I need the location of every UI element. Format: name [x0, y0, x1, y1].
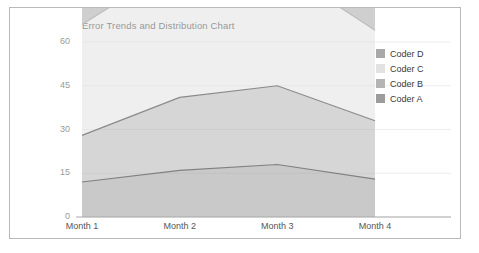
legend-swatch-icon — [376, 94, 385, 103]
y-axis-tick: 45 — [44, 80, 70, 90]
legend-item-label: Coder A — [390, 94, 423, 104]
series-areas — [82, 8, 375, 217]
legend-item[interactable]: Coder D — [376, 46, 468, 61]
x-axis-tick: Month 2 — [163, 221, 196, 231]
x-axis-tick: Month 4 — [359, 221, 392, 231]
legend-item-label: Coder D — [390, 49, 424, 59]
x-axis-tick: Month 1 — [66, 221, 99, 231]
legend-swatch-icon — [376, 64, 385, 73]
legend-item[interactable]: Coder A — [376, 91, 468, 106]
y-axis-tick: 0 — [44, 211, 70, 221]
x-axis-tick: Month 3 — [261, 221, 294, 231]
legend-swatch-icon — [376, 49, 385, 58]
legend-item-label: Coder C — [390, 64, 424, 74]
y-axis-tick: 30 — [44, 124, 70, 134]
legend-item-label: Coder B — [390, 79, 423, 89]
legend-swatch-icon — [376, 79, 385, 88]
chart-screenshot: Error Trends and Distribution Chart 0153… — [0, 0, 479, 253]
chart-frame: Error Trends and Distribution Chart 0153… — [9, 7, 461, 239]
legend-item[interactable]: Coder B — [376, 76, 468, 91]
legend-item[interactable]: Coder C — [376, 61, 468, 76]
y-axis-tick: 15 — [44, 167, 70, 177]
chart-legend: Coder DCoder CCoder BCoder A — [376, 46, 468, 106]
y-axis-tick: 60 — [44, 36, 70, 46]
chart-plot-area — [10, 8, 462, 240]
